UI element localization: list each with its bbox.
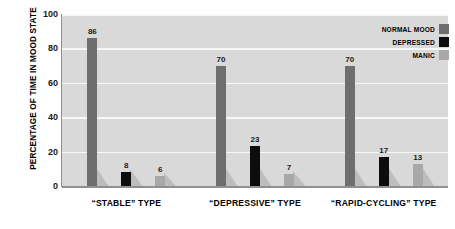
bar	[345, 66, 355, 186]
bar-shadow	[225, 167, 238, 187]
y-tick-label: 100	[30, 9, 58, 19]
bar-value-label: 70	[345, 55, 354, 64]
bar-shadow	[164, 173, 177, 187]
legend-label: MANIC	[412, 52, 435, 59]
bar-shadow	[354, 167, 367, 187]
bar	[379, 157, 389, 186]
y-tick-label: 20	[30, 147, 58, 157]
bar-value-label: 17	[379, 146, 388, 155]
bar-shadow	[130, 169, 143, 187]
y-tick-label: 60	[30, 78, 58, 88]
bar	[121, 172, 131, 186]
x-axis-line	[62, 186, 448, 188]
legend-item: NORMAL MOOD	[382, 24, 449, 34]
bar-value-label: 23	[251, 135, 260, 144]
legend: NORMAL MOODDEPRESSEDMANIC	[382, 24, 449, 60]
y-tick-label: 80	[30, 43, 58, 53]
bar-value-label: 13	[413, 153, 422, 162]
bar	[413, 164, 423, 186]
legend-item: DEPRESSED	[393, 37, 449, 47]
x-category-label: “RAPID-CYCLING” TYPE	[331, 198, 437, 208]
legend-item: MANIC	[412, 50, 449, 60]
bar	[216, 66, 226, 186]
legend-swatch	[439, 24, 449, 34]
bar-value-label: 70	[217, 55, 226, 64]
bar-value-label: 7	[287, 163, 291, 172]
bar-shadow	[259, 167, 272, 187]
legend-swatch	[439, 37, 449, 47]
legend-label: NORMAL MOOD	[382, 26, 435, 33]
bar-value-label: 8	[124, 161, 128, 170]
bar	[87, 38, 97, 186]
bar-value-label: 86	[88, 27, 97, 36]
bar	[250, 146, 260, 186]
x-category-label: “STABLE” TYPE	[91, 198, 161, 208]
bar	[155, 176, 165, 186]
legend-swatch	[439, 50, 449, 60]
y-tick-label: 0	[30, 181, 58, 191]
y-axis-tick-labels: 020406080100	[30, 14, 58, 186]
bar-shadow	[293, 171, 306, 187]
y-tick-label: 40	[30, 112, 58, 122]
x-axis-category-labels: “STABLE” TYPE“DEPRESSIVE” TYPE“RAPID-CYC…	[62, 198, 448, 218]
bar-shadow	[422, 167, 435, 187]
bar-shadow	[388, 167, 401, 187]
bar	[284, 174, 294, 186]
legend-label: DEPRESSED	[393, 39, 435, 46]
bar-chart: PERCENTAGE OF TIME IN MOOD STATE 0204060…	[0, 0, 455, 229]
bar-shadow	[96, 167, 109, 187]
x-category-label: “DEPRESSIVE” TYPE	[209, 198, 301, 208]
bar-value-label: 6	[158, 165, 162, 174]
